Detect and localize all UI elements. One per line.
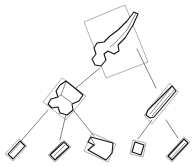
edge-left-to-leaf-a (21, 110, 48, 141)
node-leaf-sliver-a[interactable] (5, 139, 27, 161)
node-child-left[interactable] (43, 78, 86, 120)
node-leaf-sliver-c[interactable] (166, 137, 190, 162)
fragment-outline (88, 137, 113, 160)
edge-right-to-leaf-d (138, 120, 152, 139)
fragment-outline (168, 139, 188, 160)
diagram-canvas (0, 0, 195, 167)
node-child-right[interactable] (144, 83, 178, 124)
fragment-outline (132, 142, 144, 155)
edge-root-to-right (137, 49, 156, 88)
node-root-fragment[interactable] (84, 5, 148, 78)
edge-right-to-leaf-e (166, 120, 178, 138)
node-leaf-wedge[interactable] (84, 133, 116, 162)
fragment-outline (92, 12, 138, 66)
fragment-hierarchy-diagram (0, 0, 195, 167)
node-leaf-sliver-b[interactable] (48, 140, 71, 162)
fragment-outline (8, 141, 25, 159)
edge-left-to-leaf-c (74, 111, 94, 136)
node-leaf-quad[interactable] (130, 140, 146, 157)
edge-root-to-left (76, 68, 100, 88)
